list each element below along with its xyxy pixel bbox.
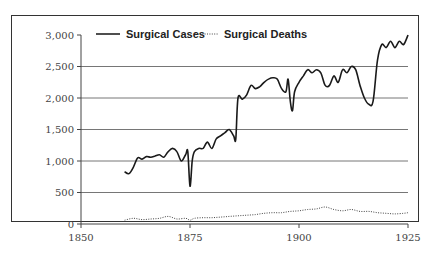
x-tick-label: 1850 [68, 232, 93, 243]
y-tick-label: 2,500 [45, 61, 74, 72]
y-tick-label: 500 [55, 187, 74, 198]
x-axis-labels: 1850187519001925 [68, 232, 420, 243]
x-tick-label: 1900 [286, 232, 311, 243]
line-chart: 05001,0001,5002,0002,5003,000 1850187519… [0, 0, 439, 262]
y-tick-label: 1,000 [45, 156, 74, 167]
y-tick-label: 2,000 [45, 93, 74, 104]
y-tick-label: 0 [68, 219, 74, 230]
axes [77, 35, 408, 228]
legend: Surgical Cases Surgical Deaths [96, 28, 307, 40]
y-tick-label: 1,500 [45, 124, 74, 135]
surgical-cases-line [125, 35, 408, 186]
surgical-deaths-line [125, 207, 408, 220]
y-tick-label: 3,000 [45, 30, 74, 41]
legend-cases-label: Surgical Cases [126, 28, 205, 40]
x-tick-label: 1875 [177, 232, 202, 243]
x-tick-label: 1925 [395, 232, 420, 243]
legend-deaths-label: Surgical Deaths [224, 28, 307, 40]
y-axis-labels: 05001,0001,5002,0002,5003,000 [45, 30, 74, 230]
